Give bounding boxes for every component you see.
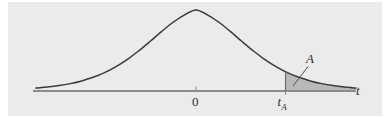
- critical-value-subscript: A: [281, 102, 287, 112]
- figure-container: 0 tA t A: [0, 0, 390, 118]
- critical-value-label: tA: [278, 95, 287, 112]
- axis-name-label: t: [356, 84, 360, 97]
- density-curve: [36, 10, 356, 88]
- area-label: A: [306, 52, 314, 65]
- origin-label: 0: [192, 95, 199, 108]
